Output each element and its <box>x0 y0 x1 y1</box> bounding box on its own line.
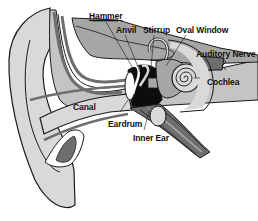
label-auditory-nerve: Auditory Nerve <box>196 50 256 59</box>
label-hammer: Hammer <box>89 12 122 21</box>
label-stirrup: Stirrup <box>143 26 170 35</box>
label-canal: Canal <box>73 103 96 112</box>
ear-diagram: Hammer Anvil Stirrup Oval Window Auditor… <box>0 0 258 221</box>
label-anvil: Anvil <box>116 26 136 35</box>
label-oval-window: Oval Window <box>176 26 228 35</box>
label-inner-ear: Inner Ear <box>133 134 169 143</box>
eardrum-membrane <box>125 72 135 100</box>
tube-bulb <box>150 106 166 126</box>
label-cochlea: Cochlea <box>207 78 239 87</box>
label-eardrum: Eardrum <box>108 120 142 129</box>
eustachian-tube <box>130 104 210 158</box>
